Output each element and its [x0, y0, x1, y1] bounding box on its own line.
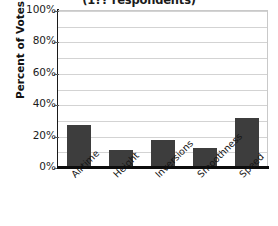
y-axis-tick-labels: 0%20%40%60%80%100% [8, 0, 56, 226]
y-tick-label: 80% [10, 34, 56, 46]
y-tick-label: 60% [10, 66, 56, 78]
y-tick-label: 100% [10, 3, 56, 15]
y-tick-label: 40% [10, 97, 56, 109]
y-tick-label: 0% [10, 160, 56, 172]
bar-chart: (1?? respondents) Percent of Votes 0%20%… [0, 0, 278, 226]
y-tick-label: 20% [10, 129, 56, 141]
